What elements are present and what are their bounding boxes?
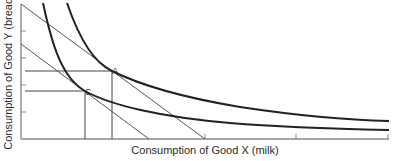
indifference-curve-diagram: A C Consumption of Good X (milk) Consump…: [0, 0, 394, 161]
y-axis-label: Consumption of Good Y (bread): [2, 0, 14, 150]
indifference-curve-inner: [43, 3, 389, 130]
point-a-label: A: [112, 66, 118, 76]
x-axis-label: Consumption of Good X (milk): [131, 144, 278, 156]
point-c-label: C: [85, 87, 92, 97]
point-c-guides: [25, 91, 85, 139]
point-a-guides: [25, 71, 112, 139]
